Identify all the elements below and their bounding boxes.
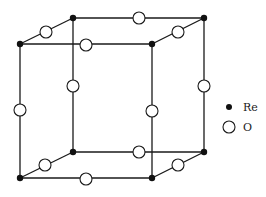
- oxygen-atom: [14, 104, 26, 116]
- legend-o-symbol: [223, 121, 235, 133]
- oxygen-atom: [198, 80, 210, 92]
- oxygen-atom: [133, 12, 145, 24]
- cube-edges: [20, 18, 204, 178]
- legend-re-symbol: [226, 104, 232, 110]
- legend-o-label: O: [243, 121, 252, 134]
- oxygen-atom: [40, 26, 52, 38]
- oxygen-atom: [80, 39, 92, 51]
- rhenium-atom: [149, 175, 155, 181]
- oxygen-atom: [80, 173, 92, 185]
- oxygen-atom: [39, 159, 51, 171]
- rhenium-atom: [149, 41, 155, 47]
- rhenium-atoms: [17, 15, 207, 181]
- oxygen-atom: [67, 80, 79, 92]
- rhenium-atom: [70, 15, 76, 21]
- rhenium-atom: [17, 41, 23, 47]
- oxygen-atoms: [14, 12, 210, 185]
- oxygen-atom: [172, 159, 184, 171]
- legend: Re O: [223, 101, 258, 134]
- rhenium-atom: [201, 149, 207, 155]
- rhenium-atom: [17, 175, 23, 181]
- legend-re-label: Re: [243, 101, 258, 114]
- rhenium-atom: [201, 15, 207, 21]
- oxygen-atom: [172, 26, 184, 38]
- oxygen-atom: [133, 146, 145, 158]
- oxygen-atom: [146, 105, 158, 117]
- rhenium-atom: [70, 149, 76, 155]
- crystal-structure-diagram: Re O: [0, 0, 266, 197]
